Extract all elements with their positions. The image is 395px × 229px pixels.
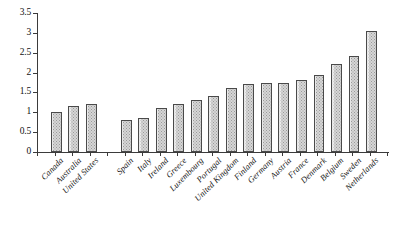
x-tick-mark	[335, 152, 336, 156]
x-tick-mark	[370, 152, 371, 156]
x-tick-label: Spain	[115, 156, 135, 176]
y-tick-label: 0	[0, 147, 31, 156]
y-tick-label: 3.5	[0, 8, 31, 17]
x-tick-mark	[107, 152, 108, 156]
bar	[138, 118, 149, 152]
bar	[226, 88, 237, 152]
y-tick-label: 1.5	[0, 87, 31, 96]
x-tick-mark	[352, 152, 353, 156]
bar-chart: 00.511.522.533.5 CanadaAustraliaUnited S…	[0, 0, 395, 229]
bar	[121, 120, 132, 152]
y-tick-label: 2	[0, 68, 31, 77]
bar	[191, 100, 202, 152]
plot-area	[37, 13, 389, 152]
bar	[173, 104, 184, 152]
bar	[349, 56, 360, 152]
x-tick-mark	[125, 152, 126, 156]
x-tick-mark	[160, 152, 161, 156]
bar	[51, 112, 62, 153]
bar	[68, 106, 79, 152]
y-tick-label: 0.5	[0, 127, 31, 136]
x-tick-mark	[72, 152, 73, 156]
bar	[156, 108, 167, 152]
x-tick-mark	[282, 152, 283, 156]
x-tick-mark	[212, 152, 213, 156]
x-tick-mark	[142, 152, 143, 156]
bar	[208, 96, 219, 152]
y-tick-label: 1	[0, 107, 31, 116]
bar	[86, 104, 97, 152]
bar	[314, 75, 325, 152]
x-tick-mark	[247, 152, 248, 156]
bar	[261, 83, 272, 153]
x-tick-mark	[55, 152, 56, 156]
x-tick-mark	[37, 152, 38, 156]
bar	[278, 83, 289, 153]
x-tick-mark	[195, 152, 196, 156]
x-tick-mark	[317, 152, 318, 156]
bar	[243, 84, 254, 152]
x-tick-mark	[387, 152, 388, 156]
y-tick-label: 3	[0, 28, 31, 37]
x-tick-mark	[90, 152, 91, 156]
x-tick-mark	[230, 152, 231, 156]
bar	[296, 80, 307, 152]
bar	[331, 64, 342, 152]
x-tick-mark	[177, 152, 178, 156]
bar	[366, 31, 377, 152]
y-tick-label: 2.5	[0, 48, 31, 57]
x-tick-mark	[300, 152, 301, 156]
x-tick-mark	[265, 152, 266, 156]
